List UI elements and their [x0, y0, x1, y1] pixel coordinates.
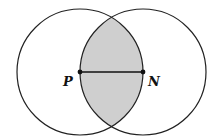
point-p-dot	[78, 70, 83, 75]
venn-diagram	[0, 0, 219, 140]
label-p: P	[63, 74, 73, 89]
point-n-dot	[141, 70, 146, 75]
diagram-canvas: P N	[0, 0, 219, 140]
label-n: N	[148, 74, 160, 89]
